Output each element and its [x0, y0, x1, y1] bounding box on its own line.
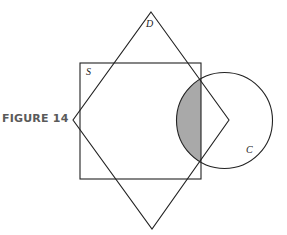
- label-s: S: [86, 66, 91, 77]
- figure-14: FIGURE 14 D S C: [0, 0, 287, 235]
- diamond-d: [73, 12, 229, 229]
- label-d: D: [146, 18, 153, 29]
- label-c: C: [246, 144, 253, 155]
- figure-caption: FIGURE 14: [2, 112, 69, 125]
